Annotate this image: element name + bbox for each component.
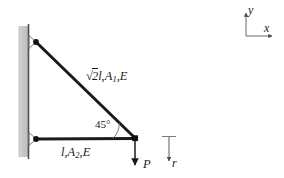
truss-figure	[0, 0, 284, 178]
bottom-pin-node	[33, 136, 39, 142]
load-label-P: P	[143, 158, 151, 171]
reaction-label-r: r	[172, 157, 177, 169]
axis-y-label: y	[248, 4, 253, 16]
axis-x-label: x	[264, 22, 269, 34]
top-pin-node	[33, 39, 39, 45]
figure-background	[0, 0, 284, 178]
horizontal-member-label: l,A2,E	[61, 146, 90, 160]
rigid-wall	[19, 24, 29, 159]
angle-label: 45°	[95, 119, 110, 130]
free-node	[132, 135, 138, 141]
wall-fill	[19, 26, 28, 157]
diagonal-modulus: E	[120, 69, 128, 83]
diagonal-member-label: √2l,A1,E	[86, 70, 127, 84]
horizontal-modulus: E	[83, 145, 91, 159]
horizontal-member	[36, 139, 135, 140]
